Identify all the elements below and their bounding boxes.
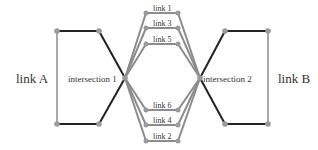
link-3-label: link 3 bbox=[153, 19, 171, 28]
intersection-1-label: intersection 1 bbox=[68, 74, 117, 84]
node bbox=[265, 28, 271, 34]
link-2-label: link 2 bbox=[153, 132, 171, 141]
link-1-label: link 1 bbox=[153, 4, 171, 13]
link-6-label: link 6 bbox=[153, 101, 171, 110]
node bbox=[54, 28, 60, 34]
node bbox=[54, 121, 60, 127]
node bbox=[96, 121, 102, 127]
link-4-label: link 4 bbox=[153, 116, 171, 125]
link-a-label: link A bbox=[16, 71, 49, 86]
intersection-2-node bbox=[197, 75, 203, 81]
road-network-diagram: link A link B intersection 1 intersectio… bbox=[0, 0, 318, 150]
link-5-label: link 5 bbox=[153, 35, 171, 44]
node bbox=[222, 121, 228, 127]
node bbox=[96, 28, 102, 34]
link-b-label: link B bbox=[278, 71, 310, 86]
node bbox=[265, 121, 271, 127]
intersection-2-label: intersection 2 bbox=[203, 74, 252, 84]
intersection-1-node bbox=[122, 75, 128, 81]
node bbox=[222, 28, 228, 34]
